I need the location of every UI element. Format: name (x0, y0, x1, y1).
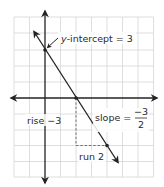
y-intercept-pointer-icon (48, 38, 59, 48)
slope-numerator: −3 (134, 106, 148, 117)
slope-intercept-diagram: y-intercept = 3 rise −3 slope = −3 2 run… (0, 0, 164, 187)
slope-denominator: 2 (138, 119, 144, 130)
run-end-point (105, 144, 109, 148)
run-label: run 2 (79, 151, 104, 162)
y-intercept-label: y-intercept = 3 (60, 33, 133, 44)
graph-canvas: y-intercept = 3 rise −3 slope = −3 2 run… (0, 0, 164, 187)
x-intercept-point (74, 96, 78, 100)
y-intercept-point (43, 48, 47, 52)
slope-label: slope = (95, 112, 131, 123)
rise-label: rise −3 (27, 115, 61, 126)
